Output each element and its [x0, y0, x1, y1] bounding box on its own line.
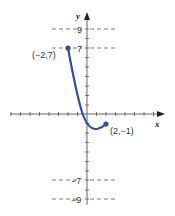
tick-label-7: 7 — [77, 44, 82, 54]
y-axis-label: y — [75, 11, 81, 21]
point-label-start: (−2,7) — [32, 50, 56, 60]
tick-label-neg9: −9 — [71, 195, 81, 205]
point-label-end: (2,−1) — [110, 126, 134, 136]
tick-label-neg7: −7 — [71, 176, 81, 186]
x-axis-arrow-icon — [157, 111, 165, 117]
x-axis-label: x — [154, 119, 160, 129]
end-point — [103, 121, 108, 126]
tick-label-9: 9 — [77, 25, 82, 35]
y-axis-arrow-icon — [84, 12, 90, 20]
function-graph: y x 9 7 −7 −9 (−2,7) (2,−1) — [0, 0, 175, 216]
axes — [10, 18, 160, 205]
start-point — [65, 45, 70, 50]
